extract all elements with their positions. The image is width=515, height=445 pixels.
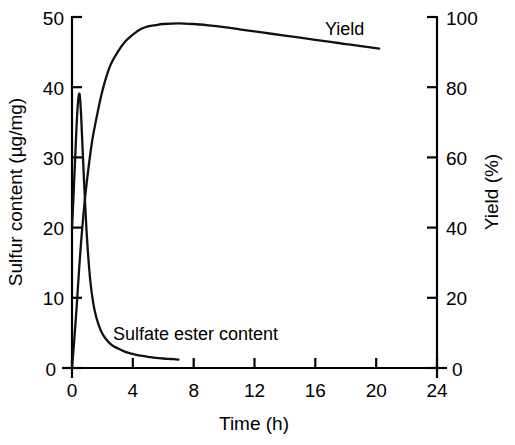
y2-tick-label: 20	[446, 288, 467, 309]
y-tick-label: 20	[43, 218, 64, 239]
chart-canvas: 50 40 30 20 10 0 100 80 60 40 20 0	[0, 0, 515, 445]
x-tick-label: 4	[128, 380, 139, 401]
series-label-sulfate-ester-content: Sulfate ester content	[113, 324, 278, 344]
x-tick-label: 0	[67, 380, 78, 401]
chart-figure: 50 40 30 20 10 0 100 80 60 40 20 0	[0, 0, 515, 445]
y2-tick-label: 100	[446, 8, 478, 29]
y-axis-right-title: Yield (%)	[481, 154, 502, 230]
curve-sulfate-ester-content	[72, 94, 178, 360]
y-axis-left-title: Sulfur content (µg/mg)	[5, 98, 26, 286]
x-tick-label: 8	[188, 380, 199, 401]
y2-tick-label: 60	[446, 148, 467, 169]
x-axis-title: Time (h)	[219, 413, 289, 434]
y-axis-left-tick-labels: 50 40 30 20 10 0	[43, 8, 64, 380]
x-tick-label: 16	[305, 380, 326, 401]
y-axis-right-tick-labels: 100 80 60 40 20 0	[446, 8, 478, 380]
y2-tick-label: 80	[446, 78, 467, 99]
y-tick-label: 50	[43, 8, 64, 29]
curve-yield	[72, 23, 379, 368]
y-tick-label: 30	[43, 148, 64, 169]
y-tick-label: 10	[43, 288, 64, 309]
y-tick-label: 0	[45, 359, 56, 380]
x-tick-label: 24	[426, 380, 448, 401]
x-axis-tick-labels: 0 4 8 12 16 20 24	[67, 380, 448, 401]
x-tick-label: 12	[244, 380, 265, 401]
y-tick-label: 40	[43, 78, 64, 99]
series-label-yield: Yield	[325, 19, 364, 39]
x-tick-label: 20	[366, 380, 387, 401]
y2-tick-label: 0	[452, 359, 463, 380]
y2-tick-label: 40	[446, 218, 467, 239]
